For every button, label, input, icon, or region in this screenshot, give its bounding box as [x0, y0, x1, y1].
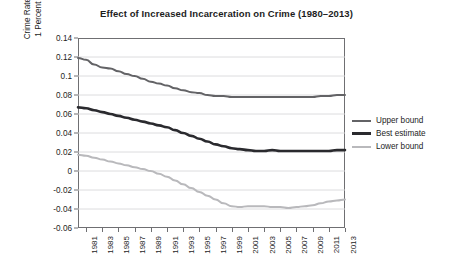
x-axis-tick-mark: [199, 228, 200, 232]
x-axis-tick-mark: [313, 228, 314, 232]
x-axis-tick-label: 1989: [154, 236, 163, 254]
x-axis-tick-label: 1993: [187, 236, 196, 254]
chart-container: Effect of Increased Incarceration on Cri…: [0, 0, 453, 278]
x-axis-tick-label: 1997: [219, 236, 228, 254]
chart-title: Effect of Increased Incarceration on Cri…: [0, 8, 453, 19]
legend-item-upper-bound: Upper bound: [352, 114, 452, 127]
y-axis-tick-label: 0.12: [56, 53, 72, 62]
series-line: [78, 58, 345, 97]
y-axis-tick-label: 0.08: [56, 91, 72, 100]
series-lines: [78, 38, 345, 228]
y-axis-tick-mark: [74, 133, 78, 134]
x-axis-tick-label: 2013: [349, 236, 358, 254]
legend-item-lower-bound: Lower bound: [352, 140, 452, 153]
y-axis-tick-mark: [74, 171, 78, 172]
y-axis-tick-mark: [74, 38, 78, 39]
x-axis-tick-label: 2009: [316, 236, 325, 254]
y-axis-tick-label: 0.04: [56, 129, 72, 138]
series-line: [78, 155, 345, 208]
x-axis-tick-mark: [280, 228, 281, 232]
y-axis-tick-mark: [74, 76, 78, 77]
x-axis-tick-label: 2001: [251, 236, 260, 254]
y-axis-title: Crime Rate Percent Decrease from a 1 Per…: [18, 0, 48, 68]
y-axis-tick-mark: [74, 152, 78, 153]
y-axis-tick-label: 0.02: [56, 148, 72, 157]
y-axis-tick-mark: [74, 114, 78, 115]
x-axis-tick-label: 2007: [300, 236, 309, 254]
y-axis-tick-mark: [74, 95, 78, 96]
x-axis-tick-mark: [264, 228, 265, 232]
x-axis-tick-label: 1999: [235, 236, 244, 254]
x-axis-tick-label: 1981: [90, 236, 99, 254]
y-axis-tick-label: -0.02: [53, 186, 72, 195]
x-axis-tick-label: 1985: [122, 236, 131, 254]
x-axis-tick-label: 1995: [203, 236, 212, 254]
x-axis-tick-label: 2005: [284, 236, 293, 254]
legend-swatch-lower-bound: [352, 146, 371, 148]
x-axis-tick-label: 2011: [332, 236, 341, 253]
legend-label-best-estimate: Best estimate: [376, 129, 426, 138]
x-axis-tick-mark: [118, 228, 119, 232]
y-axis-tick-label: 0.1: [61, 72, 72, 81]
legend-label-upper-bound: Upper bound: [376, 116, 423, 125]
x-axis-tick-mark: [296, 228, 297, 232]
y-axis-tick-label: 0: [67, 167, 72, 176]
plot-wrapper: 0.140.120.10.080.060.040.020-0.02-0.04-0…: [78, 38, 345, 228]
x-axis-tick-label: 1987: [138, 236, 147, 254]
y-axis-tick-label: 0.14: [56, 34, 72, 43]
x-axis-tick-mark: [86, 228, 87, 232]
y-axis-tick-mark: [74, 57, 78, 58]
legend-item-best-estimate: Best estimate: [352, 127, 452, 140]
x-axis-tick-mark: [102, 228, 103, 232]
x-axis-tick-mark: [329, 228, 330, 232]
x-axis-tick-label: 2003: [268, 236, 277, 254]
chart-legend: Upper bound Best estimate Lower bound: [352, 114, 452, 153]
y-axis-tick-label: -0.04: [53, 205, 72, 214]
x-axis-tick-label: 1991: [171, 236, 180, 254]
x-axis-tick-mark: [167, 228, 168, 232]
y-axis-tick-label: 0.06: [56, 110, 72, 119]
y-axis-tick-mark: [74, 228, 78, 229]
x-axis-tick-label: 1983: [106, 236, 115, 254]
x-axis-tick-mark: [216, 228, 217, 232]
x-axis-tick-mark: [345, 228, 346, 232]
x-axis-tick-mark: [135, 228, 136, 232]
x-axis-tick-mark: [232, 228, 233, 232]
y-axis-tick-label: -0.06: [53, 224, 72, 233]
y-axis-tick-mark: [74, 209, 78, 210]
y-axis-tick-mark: [74, 190, 78, 191]
x-axis-tick-mark: [151, 228, 152, 232]
x-axis-tick-mark: [183, 228, 184, 232]
legend-label-lower-bound: Lower bound: [376, 142, 423, 151]
legend-swatch-upper-bound: [352, 120, 371, 122]
legend-swatch-best-estimate: [352, 132, 371, 135]
x-axis-tick-mark: [248, 228, 249, 232]
